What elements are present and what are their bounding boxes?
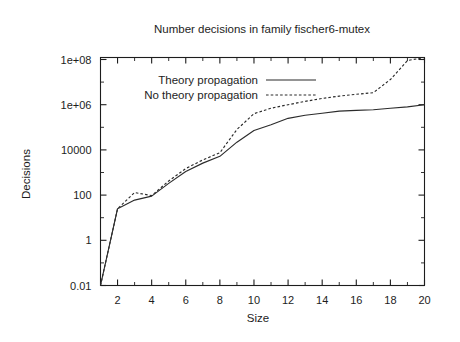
x-axis-label: Size [247,312,269,324]
x-tick-label: 18 [384,294,396,306]
legend-label-no-theory-propagation: No theory propagation [144,89,258,101]
y-tick-label: 0.01 [70,280,91,292]
x-tick-label: 4 [149,294,155,306]
y-tick-label: 1 [85,234,91,246]
x-tick-label: 8 [217,294,223,306]
x-tick-label: 20 [418,294,430,306]
x-tick-label: 10 [248,294,260,306]
chart-title: Number decisions in family fischer6-mute… [154,23,370,35]
y-tick-label: 1e+08 [61,54,92,66]
y-tick-label: 1e+06 [61,99,92,111]
chart-figure: Number decisions in family fischer6-mute… [0,0,460,342]
figure-background [0,0,460,342]
y-tick-label: 10000 [61,144,92,156]
x-tick-label: 6 [183,294,189,306]
x-tick-label: 16 [350,294,362,306]
legend-label-theory-propagation: Theory propagation [158,74,258,86]
y-tick-label: 100 [73,189,91,201]
y-axis-label: Decisions [20,149,32,199]
x-tick-label: 2 [114,294,120,306]
x-tick-label: 14 [316,294,328,306]
x-tick-label: 12 [282,294,294,306]
